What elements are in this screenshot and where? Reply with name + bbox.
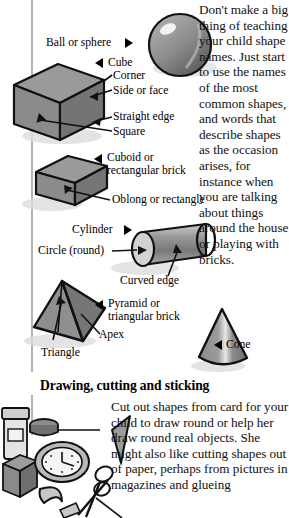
label-circle-round: Circle (round) xyxy=(38,245,104,258)
marker-cuboid-icon xyxy=(94,154,102,164)
label-side-or-face: Side or face xyxy=(113,85,168,98)
label-oblong-or-rectangle: Oblong or rectangle xyxy=(112,194,205,207)
label-cone: Cone xyxy=(226,339,250,352)
label-cube: Cube xyxy=(108,57,132,70)
page-canvas: Don't make a big thing of teaching your … xyxy=(0,0,289,518)
label-apex: Apex xyxy=(99,329,124,342)
marker-ball-or-sphere-icon xyxy=(125,38,133,48)
column-rule-lower xyxy=(31,395,33,435)
label-pyramid-line1: Pyramid or xyxy=(108,298,160,311)
label-curved-edge: Curved edge xyxy=(120,275,179,288)
marker-cone-icon xyxy=(214,340,222,350)
body-paragraph-drawing: Cut out shapes from card for your child … xyxy=(111,399,289,493)
section-heading-drawing-cutting-sticking: Drawing, cutting and sticking xyxy=(40,378,209,394)
label-pyramid-line2: triangular brick xyxy=(108,311,180,324)
marker-cylinder-icon xyxy=(124,225,132,235)
marker-cube-icon xyxy=(95,58,103,68)
marker-pyramid-icon xyxy=(95,300,103,310)
label-square: Square xyxy=(113,126,145,139)
column-rule-upper xyxy=(31,0,33,372)
body-paragraph-shapes: Don't make a big thing of teaching your … xyxy=(199,2,289,267)
label-cuboid-line1: Cuboid or xyxy=(107,152,154,165)
label-corner: Corner xyxy=(113,70,145,83)
label-cuboid-line2: rectangular brick xyxy=(107,165,186,178)
label-cylinder: Cylinder xyxy=(72,224,113,237)
label-triangle: Triangle xyxy=(41,347,80,360)
label-straight-edge: Straight edge xyxy=(113,111,175,124)
label-ball-or-sphere: Ball or sphere xyxy=(46,37,111,50)
